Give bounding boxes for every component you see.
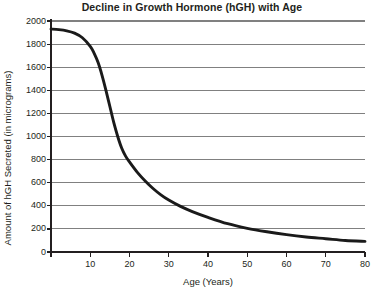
gridlines (51, 21, 365, 229)
chart-container: Decline in Growth Hormone (hGH) with Age… (0, 0, 384, 295)
plot-area (0, 0, 384, 295)
data-series-line (51, 29, 365, 241)
